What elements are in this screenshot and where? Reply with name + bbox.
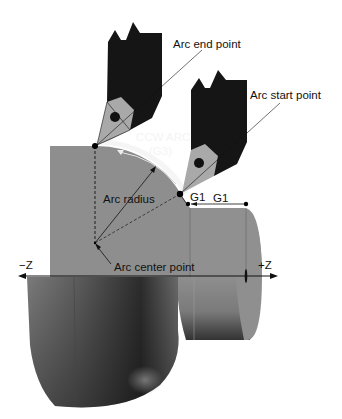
cutting-tool-end [97, 22, 162, 145]
label-arc-center-point: Arc center point [114, 261, 195, 273]
label-neg-z: −Z [19, 259, 33, 271]
label-pos-z: +Z [258, 259, 272, 271]
arc-start-point-dot [177, 191, 183, 197]
g1-right-dot [244, 202, 248, 206]
diagram-canvas: Arc end point Arc start point CCW ARC (G… [0, 0, 342, 419]
label-ccw-arc: CCW ARC [136, 131, 190, 143]
cutting-tool-start [182, 70, 247, 193]
label-g1-short: G1 [190, 191, 205, 203]
label-g1-long: G1 [213, 192, 228, 204]
label-g3: (G3) [149, 145, 172, 157]
arc-center-dot [94, 242, 96, 244]
arc-end-point-dot [92, 143, 98, 149]
label-arc-radius: Arc radius [103, 193, 155, 205]
label-arc-start-point: Arc start point [250, 89, 322, 101]
label-arc-end-point: Arc end point [173, 38, 242, 50]
